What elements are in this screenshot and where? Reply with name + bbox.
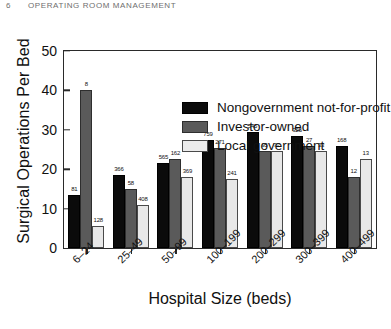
bar-value-label: 8 (85, 81, 88, 87)
running-title: OPERATING ROOM MANAGEMENT (28, 1, 176, 10)
bar-value-label: 366 (114, 166, 123, 172)
legend-swatch (182, 121, 208, 133)
bar: 271 (214, 148, 226, 248)
bar: 565 (157, 163, 169, 248)
bar-value-label: 58 (128, 180, 134, 186)
y-tick-label: 40 (15, 82, 64, 98)
legend-label: Local government (217, 138, 324, 153)
bar-value-label: 81 (71, 186, 77, 192)
bar: 366 (113, 175, 125, 248)
chart-legend: Nongovernment not-for-profitInvestor-own… (182, 99, 390, 156)
bar: 27 (303, 146, 315, 248)
bar: 8 (80, 90, 92, 248)
legend-item: Local government (182, 137, 390, 154)
legend-swatch (182, 102, 208, 114)
bar-group: 36658408 (113, 51, 149, 248)
legend-label: Investor-owned (217, 119, 309, 134)
x-axis-title: Hospital Size (beds) (63, 290, 377, 308)
legend-swatch (182, 140, 208, 152)
bar-chart-figure: Surgical Operations Per Bed 01020304050 … (0, 14, 391, 329)
bar-value-label: 162 (171, 150, 180, 156)
plot-area: 01020304050 8181283665840856516236975927… (63, 50, 377, 249)
bar: 168 (336, 146, 348, 248)
page-running-header: 6 OPERATING ROOM MANAGEMENT (0, 0, 391, 14)
bar-value-label: 408 (138, 196, 147, 202)
bar-value-label: 565 (159, 154, 168, 160)
y-tick-label: 10 (15, 201, 64, 217)
bar-value-label: 369 (183, 168, 192, 174)
bar-value-label: 241 (227, 170, 236, 176)
legend-item: Investor-owned (182, 118, 390, 135)
bar: 128 (92, 226, 104, 248)
y-tick-label: 30 (15, 122, 64, 138)
legend-item: Nongovernment not-for-profit (182, 99, 390, 116)
bar-value-label: 128 (94, 217, 103, 223)
bar-value-label: 12 (351, 168, 357, 174)
y-tick-label: 50 (15, 43, 64, 59)
page-number: 6 (6, 1, 11, 10)
legend-label: Nongovernment not-for-profit (217, 100, 390, 115)
bar-group: 818128 (68, 51, 104, 248)
bar: 81 (68, 195, 80, 248)
y-tick-label: 0 (15, 240, 64, 256)
y-tick-label: 20 (15, 161, 64, 177)
bar: 95 (259, 151, 271, 248)
